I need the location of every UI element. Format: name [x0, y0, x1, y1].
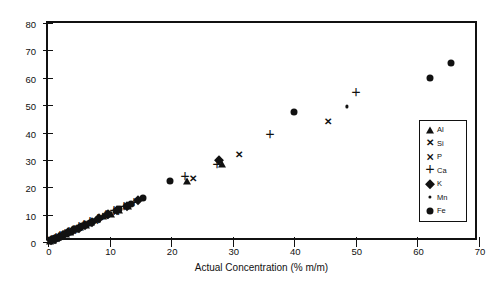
plot-area: 01020304050607080 010203040506070 ✕✕✕✕✕✕… [46, 21, 477, 240]
data-point-Fe [426, 74, 433, 81]
chart-legend: Al✕Si⨯P＋CaKMnFe [419, 120, 467, 222]
data-point-Fe [128, 200, 135, 207]
legend-label: Si [437, 139, 444, 148]
legend-item-Mn[interactable]: Mn [423, 191, 463, 205]
legend-item-P[interactable]: ⨯P [423, 150, 463, 164]
legend-marker-x-cross: ✕ [423, 137, 436, 150]
legend-label: K [437, 179, 442, 188]
legend-label: Ca [437, 166, 447, 175]
data-point-Ca: ＋ [180, 172, 190, 182]
legend-item-Ca[interactable]: ＋Ca [423, 164, 463, 178]
x-tick-label: 40 [290, 246, 301, 257]
data-point-Si: ✕ [189, 174, 197, 184]
data-point-Si: ✕ [324, 117, 332, 127]
marker-x-cross: ✕ [426, 138, 434, 148]
data-point-Mn [345, 105, 348, 108]
y-tick-label: 50 [25, 101, 36, 112]
marker-plus: ＋ [425, 165, 435, 175]
marker-small-dot [428, 196, 431, 199]
data-point-Fe [86, 219, 93, 226]
y-tick-label: 40 [25, 128, 36, 139]
legend-item-Si[interactable]: ✕Si [423, 137, 463, 151]
legend-marker-plus: ＋ [423, 164, 436, 177]
legend-marker-filled-circle [423, 204, 436, 217]
legend-label: P [437, 152, 442, 161]
legend-item-Fe[interactable]: Fe [423, 204, 463, 218]
data-points-layer: ✕✕✕✕✕✕✕✕✕✕✕✕✕✕✕✕✕⨯⨯⨯⨯⨯⨯⨯⨯⨯⨯⨯⨯⨯＋＋＋＋＋＋＋＋＋＋… [48, 23, 479, 242]
data-point-Fe [140, 195, 147, 202]
data-point-Fe [291, 108, 298, 115]
legend-item-K[interactable]: K [423, 177, 463, 191]
x-tick-label: 20 [167, 246, 178, 257]
legend-label: Fe [437, 206, 446, 215]
y-tick-label: 80 [25, 19, 36, 30]
data-point-Fe [166, 178, 173, 185]
legend-marker-filled-diamond [423, 177, 436, 190]
legend-item-Al[interactable]: Al [423, 123, 463, 137]
legend-label: Mn [437, 193, 447, 202]
data-point-Ca: ＋ [351, 88, 361, 98]
y-tick-label: 30 [25, 155, 36, 166]
y-tick-label: 60 [25, 73, 36, 84]
x-tick-label: 30 [228, 246, 239, 257]
x-tick-label: 0 [46, 246, 51, 257]
x-tick-label: 70 [475, 246, 486, 257]
data-point-Fe [79, 223, 86, 230]
legend-marker-x-with-bar: ⨯ [423, 150, 436, 163]
x-tick-label: 60 [413, 246, 424, 257]
y-tick-label: 10 [25, 210, 36, 221]
marker-filled-triangle [426, 126, 434, 133]
data-point-Ca: ＋ [265, 130, 275, 140]
x-axis-label: Actual Concentration (% m/m) [46, 262, 477, 273]
data-point-Fe [95, 215, 102, 222]
x-tick: 70 [479, 237, 480, 247]
data-point-Si: ✕ [235, 150, 243, 160]
data-point-Fe [116, 206, 123, 213]
legend-marker-small-dot [423, 191, 436, 204]
legend-label: Al [437, 125, 444, 134]
y-tick-label: 20 [25, 183, 36, 194]
data-point-Fe [448, 59, 455, 66]
marker-x-with-bar: ⨯ [426, 152, 434, 162]
marker-filled-diamond [425, 179, 434, 188]
marker-filled-circle [426, 207, 433, 214]
legend-marker-filled-triangle [423, 123, 436, 136]
x-tick-label: 50 [352, 246, 363, 257]
y-tick-label: 0 [31, 238, 36, 249]
x-tick-label: 10 [105, 246, 116, 257]
y-axis-label-wrapper: Measured Concentration (%m/m) [0, 21, 16, 240]
y-tick-label: 70 [25, 46, 36, 57]
data-point-Fe [105, 211, 112, 218]
scatter-chart-figure: Measured Concentration (%m/m) 0102030405… [0, 0, 491, 282]
